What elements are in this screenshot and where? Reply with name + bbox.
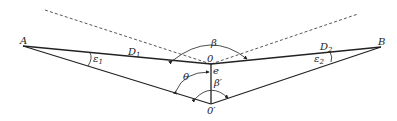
label-O-prime: 0′ — [207, 105, 216, 116]
label-theta: θ — [183, 71, 189, 82]
label-beta-prime: β′ — [213, 77, 223, 88]
label-e: e — [213, 65, 219, 76]
theta-arc — [176, 72, 209, 91]
geometry-diagram: A B 0 0′ e D1 D2 ε1 ε2 β θ β′ — [0, 0, 397, 121]
label-epsilon1: ε1 — [93, 53, 103, 66]
label-B: B — [377, 36, 385, 47]
label-epsilon2: ε2 — [314, 53, 324, 66]
epsilon1-arc — [88, 53, 91, 66]
label-beta: β — [210, 37, 217, 48]
label-A: A — [19, 35, 27, 46]
label-O: 0 — [207, 53, 214, 64]
